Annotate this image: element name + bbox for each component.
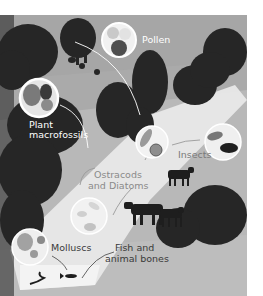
grain-icon [150,144,162,156]
pollen-grain-dark-icon [111,40,127,56]
shell-icon [17,233,33,251]
label-fish-line2: animal bones [105,254,169,264]
beetle-dark-icon [220,143,238,153]
ostracod-icon [84,223,96,231]
label-ostracods-line2: and Diatoms [88,181,148,191]
label-molluscs: Molluscs [51,243,91,253]
callout-core-sample [136,126,168,158]
label-ostracods-line1: Ostracods [94,170,142,180]
callout-plant-macrofossils [20,79,58,117]
callout-ostracods-diatoms [71,198,107,234]
callout-molluscs [12,229,48,265]
leaf-fragment-icon [23,84,41,106]
label-plant-line2: macrofossils [29,130,88,140]
pollen-grain-icon [107,27,119,39]
callout-pollen [102,23,136,57]
label-fish-line1: Fish and [115,243,154,253]
label-insects: Insects [178,150,212,160]
leaf-dark-icon [40,84,52,100]
label-pollen: Pollen [142,35,170,45]
